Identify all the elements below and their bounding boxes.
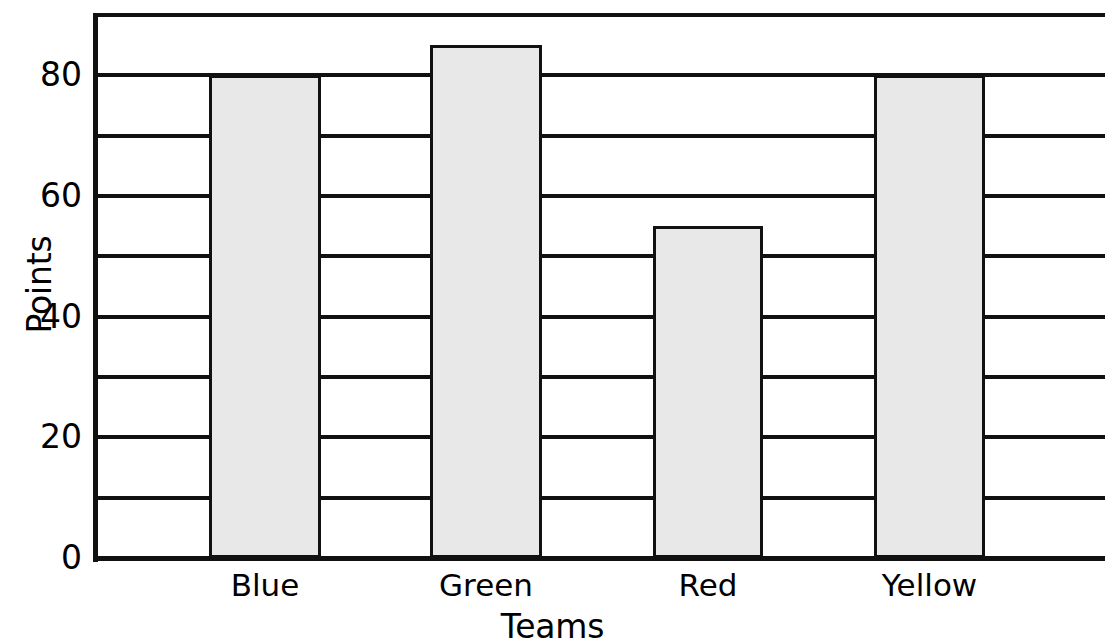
x-tick-label-green: Green (376, 570, 596, 601)
x-tick-label-yellow: Yellow (820, 570, 1040, 601)
bar-yellow[interactable] (874, 75, 985, 558)
y-tick-label: 20 (0, 420, 82, 453)
y-tick-label: 80 (0, 58, 82, 91)
y-axis-line (93, 13, 98, 562)
gridline (97, 13, 1105, 17)
x-axis-line (93, 556, 1105, 561)
y-axis-title: Points (20, 225, 59, 345)
bar-green[interactable] (430, 45, 542, 558)
x-tick-label-red: Red (598, 570, 818, 601)
y-tick-label: 60 (0, 179, 82, 212)
x-tick-label-blue: Blue (155, 570, 375, 601)
plot-area: 806040200 BlueGreenRedYellow (0, 0, 1105, 640)
bar-blue[interactable] (209, 75, 321, 558)
bar-chart: 806040200 BlueGreenRedYellow Points Team… (0, 0, 1105, 640)
x-axis-title: Teams (0, 607, 1105, 640)
bar-red[interactable] (653, 226, 763, 558)
y-tick-label: 0 (0, 541, 82, 574)
